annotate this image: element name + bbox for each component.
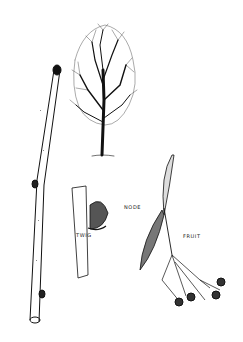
node-label: NODE <box>124 204 141 210</box>
botanical-illustration: TWIG NODE FRUIT <box>0 0 243 342</box>
twig-label: TWIG <box>76 232 92 238</box>
fruit-label: FRUIT <box>183 233 201 239</box>
tree-drawing <box>70 24 137 156</box>
twig-drawing <box>30 65 61 323</box>
fruit-drawing <box>140 155 225 306</box>
drawing-canvas <box>0 0 243 342</box>
